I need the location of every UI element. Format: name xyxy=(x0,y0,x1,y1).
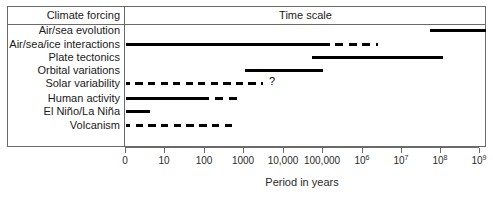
x-axis-tick-label: 107 xyxy=(393,155,408,167)
bar-segment xyxy=(312,56,443,59)
x-axis-tick-label: 100 xyxy=(196,155,213,167)
x-axis-tick-label: 108 xyxy=(432,155,447,167)
bar-segment xyxy=(126,97,204,100)
x-axis-tick-label: 106 xyxy=(354,155,369,167)
climate-forcing-timescale-figure: Climate forcing Time scale Air/sea evolu… xyxy=(0,0,493,197)
bar-segment xyxy=(126,110,150,113)
x-axis-tick-label: 10,000 xyxy=(268,155,299,167)
x-axis-tick-label: 109 xyxy=(471,155,486,167)
bar-segment xyxy=(126,82,263,85)
x-axis-tick xyxy=(204,148,205,153)
x-axis-tick xyxy=(164,148,165,153)
header-climate-forcing: Climate forcing xyxy=(7,7,120,23)
row-label: Orbital variations xyxy=(0,63,120,77)
row-label: Air/sea/ice interactions xyxy=(0,37,120,51)
x-axis-tick-label: 10 xyxy=(158,155,169,167)
x-axis-title: Period in years xyxy=(125,176,479,188)
bar-segment xyxy=(245,69,323,72)
x-axis-tick xyxy=(322,148,323,153)
x-axis-tick xyxy=(125,148,126,153)
bar-segment xyxy=(126,43,325,46)
bar-annotation: ? xyxy=(269,76,275,87)
x-axis-tick xyxy=(479,148,480,153)
x-axis-tick xyxy=(283,148,284,153)
row-label: Volcanism xyxy=(0,118,120,132)
row-label: Human activity xyxy=(0,91,120,105)
bar-segment xyxy=(204,97,241,100)
x-axis-tick xyxy=(243,148,244,153)
row-label: El Niño/La Niña xyxy=(0,104,120,118)
x-axis-tick-label: 1000 xyxy=(232,155,254,167)
header-time-scale: Time scale xyxy=(125,7,486,23)
bar-segment xyxy=(325,43,378,46)
x-axis-tick xyxy=(362,148,363,153)
x-axis-tick-label: 100,000 xyxy=(304,155,340,167)
row-label: Plate tectonics xyxy=(0,50,120,64)
column-divider xyxy=(124,6,125,147)
x-axis-line xyxy=(125,147,479,148)
bar-segment xyxy=(430,29,486,32)
row-label: Solar variability xyxy=(0,76,120,90)
x-axis-tick xyxy=(401,148,402,153)
x-axis-tick-label: 0 xyxy=(122,155,128,167)
bar-segment xyxy=(126,124,233,127)
x-axis-tick xyxy=(440,148,441,153)
row-label: Air/sea evolution xyxy=(0,23,120,37)
